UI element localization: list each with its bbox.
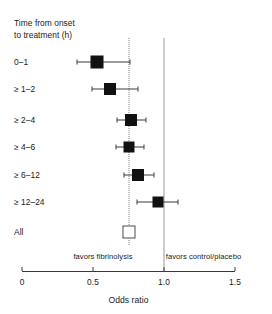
- estimate-marker: [132, 169, 144, 181]
- pooled-estimate-marker: [122, 226, 135, 239]
- row-label: ≥ 1–2: [14, 84, 35, 94]
- estimate-marker: [123, 142, 134, 153]
- axis-tick-label: 1.5: [229, 277, 241, 287]
- x-axis-line: [22, 271, 235, 272]
- confidence-interval-cap: [138, 87, 139, 92]
- x-axis-title: Odds ratio: [108, 295, 148, 305]
- axis-tick: [22, 267, 23, 271]
- axis-tick: [164, 267, 165, 271]
- confidence-interval-cap: [154, 173, 155, 178]
- row-label: ≥ 4–6: [14, 142, 35, 152]
- favors-right-label: favors control/placebo: [166, 252, 241, 261]
- confidence-interval-cap: [145, 118, 146, 123]
- estimate-marker: [104, 83, 116, 95]
- row-label: ≥ 12–24: [14, 197, 45, 207]
- confidence-interval-cap: [117, 118, 118, 123]
- estimate-marker: [153, 197, 164, 208]
- axis-tick: [235, 267, 236, 271]
- confidence-interval-cap: [91, 87, 92, 92]
- forest-plot-figure: Time from onset to treatment (h) 0–1≥ 1–…: [0, 0, 272, 314]
- axis-tick-label: 1.0: [158, 277, 170, 287]
- null-effect-reference-line: [164, 38, 165, 271]
- confidence-interval-cap: [124, 173, 125, 178]
- axis-tick: [93, 267, 94, 271]
- axis-tick-label: 0.5: [87, 277, 99, 287]
- row-label: ≥ 6–12: [14, 170, 40, 180]
- row-label: 0–1: [14, 57, 28, 67]
- estimate-marker: [125, 114, 137, 126]
- estimate-marker: [91, 56, 104, 69]
- confidence-interval-cap: [144, 145, 145, 150]
- row-label: ≥ 2–4: [14, 115, 35, 125]
- axis-tick-label: 0: [20, 277, 25, 287]
- row-label: All: [14, 227, 23, 237]
- confidence-interval-cap: [178, 200, 179, 205]
- confidence-interval-cap: [115, 145, 116, 150]
- confidence-interval-cap: [129, 60, 130, 65]
- confidence-interval-cap: [137, 200, 138, 205]
- favors-left-label: favors fibrinolysis: [73, 252, 132, 261]
- confidence-interval-cap: [77, 60, 78, 65]
- plot-area: 0–1≥ 1–2≥ 2–4≥ 4–6≥ 6–12≥ 12–24All: [0, 0, 272, 314]
